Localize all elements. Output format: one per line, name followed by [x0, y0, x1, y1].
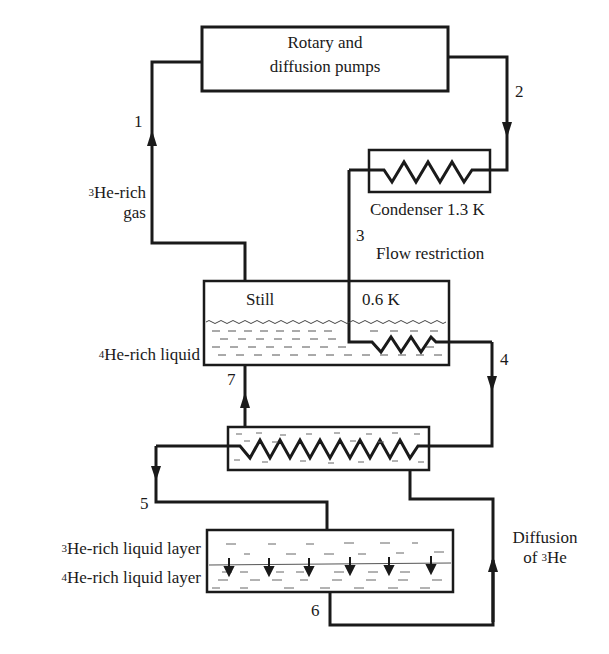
arrow-down-line-4	[487, 376, 497, 392]
upper-layer-isotope: 3	[61, 542, 67, 554]
flow-point-1: 1	[134, 112, 143, 132]
flow-point-4: 4	[500, 350, 509, 370]
flow-line-1	[152, 62, 245, 280]
diffusion-suffix: He	[547, 548, 567, 567]
condenser-label: Condenser 1.3 K	[370, 200, 485, 220]
arrow-up-line-7	[240, 392, 250, 408]
still-label: Still	[246, 290, 274, 310]
flow-line-5	[156, 446, 327, 530]
still-liquid-isotope: 4	[99, 348, 105, 360]
pumps-label-line2: diffusion pumps	[202, 57, 448, 77]
gas-label-line2: gas	[60, 203, 146, 223]
lower-layer-text: He-rich liquid layer	[67, 568, 201, 587]
phase-boundary	[209, 563, 451, 565]
flow-line-2	[448, 57, 507, 170]
flow-point-2: 2	[515, 82, 524, 102]
mixing-chamber-box	[207, 530, 453, 592]
flow-point-6: 6	[311, 601, 320, 621]
diffusion-isotope: 3	[542, 551, 548, 563]
lower-layer-label: 4He-rich liquid layer	[14, 568, 201, 588]
still-liquid-label: 4He-rich liquid	[40, 345, 200, 365]
mixing-chamber-dashes	[212, 543, 444, 588]
gas-label-line1: He-rich	[94, 183, 146, 202]
diffusion-prefix: of	[523, 548, 541, 567]
flow-point-5: 5	[140, 494, 149, 514]
lower-layer-isotope: 4	[61, 571, 67, 583]
still-liquid-text: He-rich liquid	[104, 345, 200, 364]
flow-line-3	[349, 170, 362, 342]
arrow-down-line-2	[502, 122, 512, 138]
diffusion-line1: Diffusion	[500, 528, 590, 548]
still-temperature: 0.6 K	[362, 290, 400, 310]
flow-line-exchanger-out	[410, 470, 493, 622]
flow-point-3: 3	[356, 226, 365, 246]
arrow-up-line-1	[147, 130, 157, 146]
still-coil	[362, 337, 492, 352]
gas-isotope: 3	[89, 186, 95, 198]
gas-label: 3He-rich gas	[60, 183, 146, 223]
upper-layer-text: He-rich liquid layer	[67, 539, 201, 558]
flow-restriction-label: Flow restriction	[376, 244, 484, 264]
flow-point-7: 7	[227, 370, 236, 390]
still-liquid-surface	[206, 321, 446, 324]
upper-layer-label: 3He-rich liquid layer	[14, 539, 201, 559]
arrow-down-line-5	[151, 466, 161, 481]
pumps-label: Rotary and diffusion pumps	[202, 33, 448, 77]
pumps-label-line1: Rotary and	[202, 33, 448, 53]
heat-exchanger-coil	[156, 440, 440, 458]
arrow-up-diffusion	[488, 556, 498, 572]
diffusion-label: Diffusion of 3He	[500, 528, 590, 568]
